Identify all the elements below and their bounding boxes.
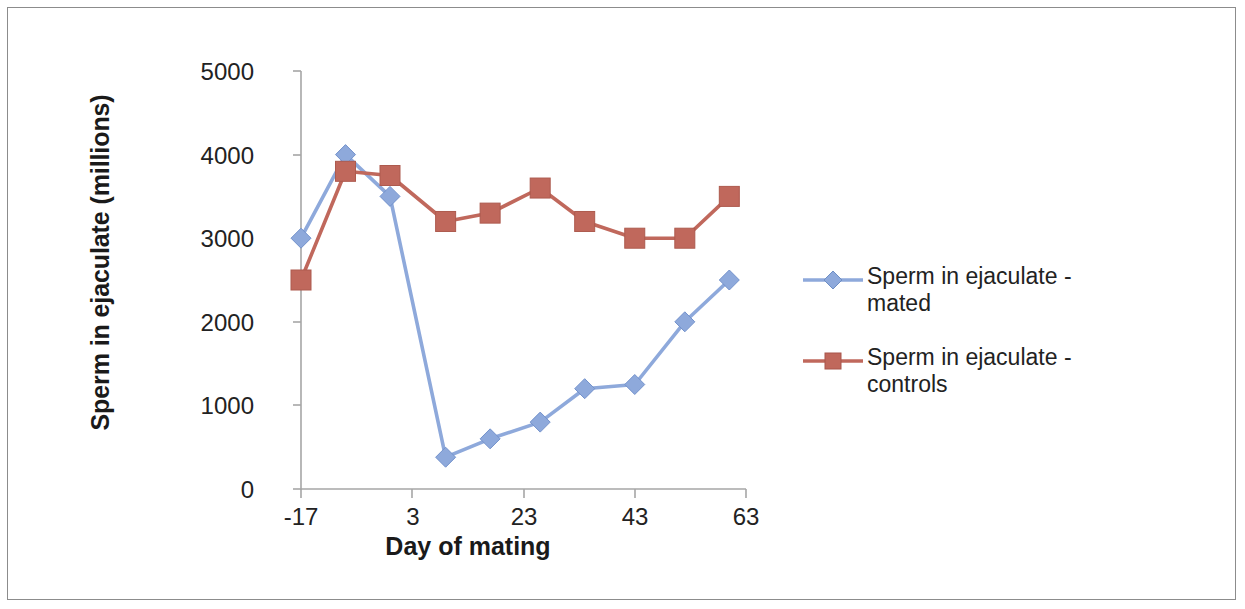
legend-item-controls[interactable]: Sperm in ejaculate - controls [803,344,1173,398]
series-mated [291,145,739,468]
chart-plot-area: Sperm in ejaculate (millions) 5000 4000 … [8,8,1237,601]
legend-marker-square-icon [803,348,863,374]
chart-page: Sperm in ejaculate (millions) 5000 4000 … [0,0,1245,609]
data-point [719,186,739,206]
data-point [291,228,311,248]
data-point [675,228,695,248]
data-point [575,211,595,231]
legend-marker-diamond-icon [803,267,863,293]
data-point [480,429,500,449]
chart-frame: Sperm in ejaculate (millions) 5000 4000 … [7,7,1236,600]
data-point [480,203,500,223]
legend-label-controls-line2: controls [867,371,948,397]
legend-label-mated-line2: mated [867,290,931,316]
chart-legend: Sperm in ejaculate - mated Sperm in ejac… [803,263,1173,426]
data-point [436,447,456,467]
legend-item-mated[interactable]: Sperm in ejaculate - mated [803,263,1173,317]
legend-label-mated: Sperm in ejaculate - mated [867,263,1117,317]
data-point [291,270,311,290]
data-point [436,211,456,231]
legend-label-controls-line1: Sperm in ejaculate - [867,344,1072,370]
data-point [380,166,400,186]
data-point [625,228,645,248]
data-point [336,161,356,181]
legend-label-mated-line1: Sperm in ejaculate - [867,263,1072,289]
x-axis-ticks [301,489,746,498]
series-line [301,171,729,280]
series-controls [291,161,739,290]
legend-label-controls: Sperm in ejaculate - controls [867,344,1117,398]
data-point [530,178,550,198]
data-series-layer [291,145,739,468]
